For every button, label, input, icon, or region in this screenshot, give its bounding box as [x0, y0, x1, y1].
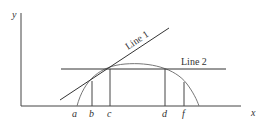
marker-b: b: [89, 108, 94, 119]
line-2-label: Line 2: [181, 56, 207, 67]
x-markers: a b c d f: [72, 108, 186, 119]
line-1: [60, 28, 169, 100]
y-axis-label: y: [11, 9, 17, 20]
marker-d: d: [162, 108, 168, 119]
diagram: y x Line 2 Line 1 a b c d f: [0, 0, 269, 120]
x-axis-label: x: [250, 107, 256, 118]
marker-c: c: [107, 108, 112, 119]
drop-lines: [92, 69, 184, 106]
marker-a: a: [72, 108, 77, 119]
curve: [77, 64, 199, 106]
line-1-label: Line 1: [123, 28, 151, 51]
marker-f: f: [182, 108, 186, 119]
